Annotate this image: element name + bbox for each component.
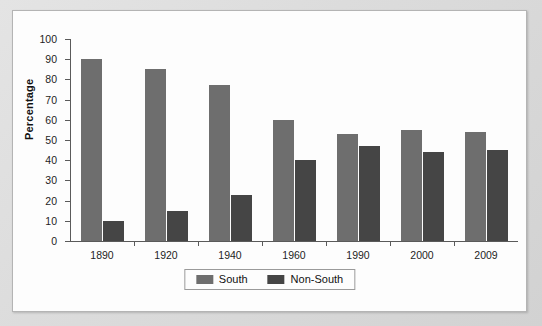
legend-label-south: South (219, 273, 248, 285)
y-axis-tick: 10 (65, 221, 70, 222)
legend-item-non-south: Non-South (268, 273, 344, 285)
bar-south-1940 (209, 85, 230, 241)
y-axis-line (70, 39, 71, 241)
x-axis-tick-label: 1960 (282, 249, 305, 261)
x-axis-tick-label: 1890 (90, 249, 113, 261)
y-axis-tick-label: 0 (51, 235, 57, 247)
chart-panel: Percentage 0102030405060708090100 189019… (12, 10, 527, 312)
plot-area: 0102030405060708090100 18901920194019601… (70, 39, 518, 241)
y-axis-tick-label: 90 (45, 53, 57, 65)
bar-south-1890 (81, 59, 102, 241)
y-axis-tick: 80 (65, 79, 70, 80)
y-axis-tick: 30 (65, 180, 70, 181)
y-axis-tick: 50 (65, 140, 70, 141)
x-axis-tick (390, 241, 391, 246)
legend-swatch-south-icon (196, 275, 213, 284)
bar-non-south-1920 (167, 211, 188, 241)
y-axis-tick-label: 50 (45, 134, 57, 146)
y-axis-tick-label: 70 (45, 94, 57, 106)
x-axis-tick (198, 241, 199, 246)
legend-item-south: South (196, 273, 248, 285)
y-axis-tick-label: 80 (45, 73, 57, 85)
y-axis-tick: 60 (65, 120, 70, 121)
bar-non-south-1890 (103, 221, 124, 241)
legend-swatch-non-south-icon (268, 275, 285, 284)
bar-south-2009 (465, 132, 486, 241)
x-axis-tick-label: 2000 (410, 249, 433, 261)
bar-non-south-2000 (423, 152, 444, 241)
y-axis-tick-label: 60 (45, 114, 57, 126)
x-axis-tick (454, 241, 455, 246)
x-axis-tick-label: 1940 (218, 249, 241, 261)
x-axis-tick-label: 2009 (474, 249, 497, 261)
bar-non-south-1990 (359, 146, 380, 241)
bar-south-1960 (273, 120, 294, 241)
y-axis-tick-label: 40 (45, 154, 57, 166)
page-background: Percentage 0102030405060708090100 189019… (0, 0, 542, 326)
y-axis-tick-label: 30 (45, 174, 57, 186)
x-axis-tick (134, 241, 135, 246)
bar-south-1920 (145, 69, 166, 241)
bar-south-2000 (401, 130, 422, 241)
bar-non-south-1940 (231, 195, 252, 241)
bar-non-south-2009 (487, 150, 508, 241)
x-axis-line (70, 241, 518, 242)
bar-non-south-1960 (295, 160, 316, 241)
y-axis-tick-label: 20 (45, 195, 57, 207)
x-axis-tick (326, 241, 327, 246)
y-axis-tick-label: 100 (39, 33, 57, 45)
x-axis-tick-label: 1990 (346, 249, 369, 261)
y-axis-tick: 100 (65, 39, 70, 40)
y-axis-tick: 70 (65, 100, 70, 101)
chart-legend: South Non-South (184, 269, 355, 290)
y-axis-title: Percentage (23, 79, 35, 140)
y-axis-tick: 20 (65, 201, 70, 202)
x-axis-tick-label: 1920 (154, 249, 177, 261)
y-axis-tick: 0 (65, 241, 70, 242)
bar-south-1990 (337, 134, 358, 241)
legend-label-non-south: Non-South (291, 273, 344, 285)
y-axis-tick-label: 10 (45, 215, 57, 227)
x-axis-tick (262, 241, 263, 246)
y-axis-tick: 40 (65, 160, 70, 161)
y-axis-tick: 90 (65, 59, 70, 60)
